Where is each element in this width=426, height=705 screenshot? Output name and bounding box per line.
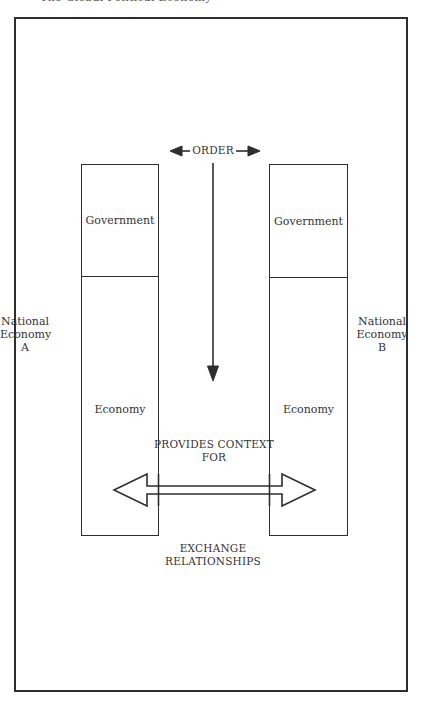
label-line: PROVIDES CONTEXT bbox=[154, 438, 274, 451]
provides-context-label: PROVIDES CONTEXT FOR bbox=[154, 438, 274, 464]
order-label: ORDER bbox=[190, 144, 236, 157]
label-line: FOR bbox=[154, 451, 274, 464]
label-line: EXCHANGE bbox=[150, 542, 276, 555]
exchange-double-arrow-icon bbox=[114, 474, 315, 506]
exchange-relationships-label: EXCHANGE RELATIONSHIPS bbox=[150, 542, 276, 568]
arrows-overlay bbox=[0, 0, 426, 705]
order-down-arrow-icon bbox=[208, 163, 219, 381]
label-line: RELATIONSHIPS bbox=[150, 555, 276, 568]
